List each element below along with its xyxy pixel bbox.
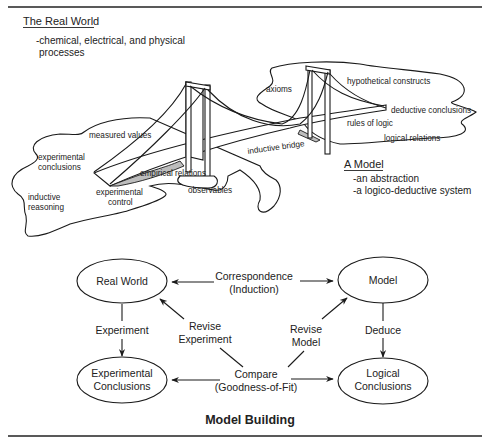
label-inductive-reasoning-2: reasoning — [28, 203, 64, 212]
edge-revise-model-1: Revise — [290, 323, 322, 335]
model-heading: A Model — [344, 158, 384, 170]
connector-compare-left — [220, 348, 243, 367]
edge-compare-1: Compare — [234, 368, 277, 380]
arrow-revise-model — [322, 298, 347, 319]
node-real-world-label: Real World — [96, 275, 148, 287]
label-experimental-control-1: experimental — [96, 188, 143, 197]
real-world-heading-group: The Real World -chemical, electrical, an… — [23, 15, 185, 58]
label-experimental-conclusions-2: conclusions — [38, 163, 81, 172]
node-logical-conclusions-label-1: Logical — [366, 367, 399, 379]
flowchart: Real World Model Experimental Conclusion… — [77, 257, 428, 427]
arrow-revise-experiment — [160, 299, 184, 319]
label-logical-relations: logical relations — [384, 134, 440, 143]
real-world-heading: The Real World — [23, 15, 99, 27]
node-experimental-conclusions-label-1: Experimental — [91, 367, 152, 379]
real-world-desc-line2: processes — [39, 47, 85, 58]
connector-compare-right — [288, 351, 304, 367]
label-empirical-relations: empirical relations — [140, 169, 206, 178]
diagram-title: Model Building — [205, 413, 295, 427]
edge-experiment: Experiment — [95, 324, 148, 336]
model-building-figure: The Real World -chemical, electrical, an… — [0, 0, 487, 442]
model-desc-line1: -an abstraction — [353, 173, 419, 184]
edge-deduce: Deduce — [365, 324, 401, 336]
model-heading-group: A Model -an abstraction -a logico-deduct… — [344, 158, 471, 196]
edge-revise-experiment-1: Revise — [189, 320, 221, 332]
label-deductive-conclusions: deductive conclusions — [391, 106, 471, 115]
edge-revise-experiment-2: Experiment — [178, 333, 231, 345]
model-desc-line2: -a logico-deductive system — [353, 185, 471, 196]
label-observables: observables — [188, 186, 232, 195]
label-inductive-bridge: inductive bridge — [247, 139, 305, 156]
edge-revise-model-2: Model — [292, 336, 321, 348]
model-cloud — [257, 62, 476, 144]
node-experimental-conclusions-label-2: Conclusions — [93, 380, 150, 392]
label-experimental-conclusions-1: experimental — [38, 153, 85, 162]
edge-correspondence-2: (Induction) — [229, 283, 279, 295]
label-axioms: axioms — [266, 85, 292, 94]
label-hypothetical-constructs: hypothetical constructs — [347, 77, 430, 86]
label-measured-values: measured values — [89, 131, 151, 140]
label-inductive-reasoning-1: inductive — [28, 193, 61, 202]
label-experimental-control-2: control — [108, 198, 133, 207]
edge-correspondence-1: Correspondence — [215, 270, 293, 282]
edge-compare-2: (Goodness-of-Fit) — [215, 381, 297, 393]
label-rules-of-logic: rules of logic — [347, 119, 393, 128]
node-model-label: Model — [369, 274, 398, 286]
node-logical-conclusions-label-2: Conclusions — [354, 380, 411, 392]
real-world-desc-line1: -chemical, electrical, and physical — [36, 35, 185, 46]
